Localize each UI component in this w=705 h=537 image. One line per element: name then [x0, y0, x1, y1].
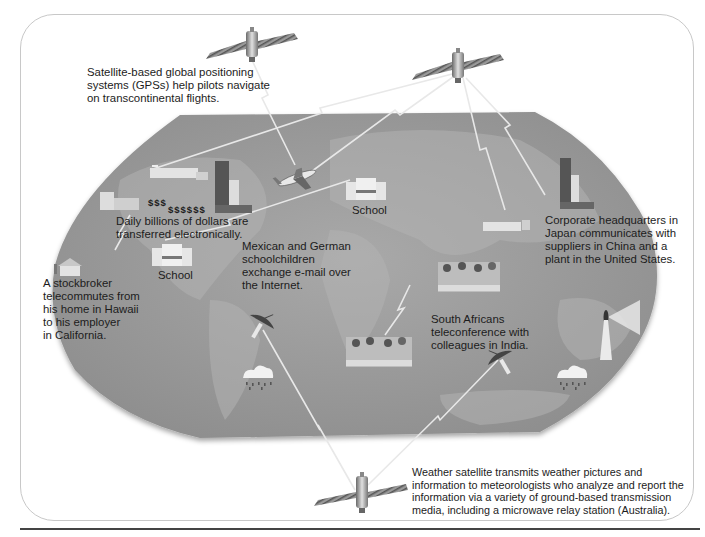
satellite-icon — [206, 27, 298, 62]
caption-stockbroker: A stockbroker telecommutes from his home… — [43, 277, 140, 342]
dollar-signs-a: $$$ — [148, 196, 167, 209]
caption-weather: Weather satellite transmits weather pict… — [412, 466, 684, 516]
school-label-germany: School — [352, 204, 387, 216]
caption-corporate: Corporate headquarters in Japan communic… — [545, 214, 678, 266]
caption-money: Daily billions of dollars are transferre… — [116, 215, 248, 241]
meeting-table-icon — [438, 262, 500, 292]
meeting-table-icon — [346, 337, 412, 367]
caption-teleconference: South Africans teleconference with colle… — [431, 313, 529, 352]
school-label-mexico: School — [158, 269, 193, 281]
caption-gps: Satellite-based global positioning syste… — [87, 66, 270, 105]
satellite-icon — [412, 48, 504, 83]
satellite-icon — [314, 472, 408, 513]
caption-schoolchildren: Mexican and German schoolchildren exchan… — [242, 240, 351, 292]
